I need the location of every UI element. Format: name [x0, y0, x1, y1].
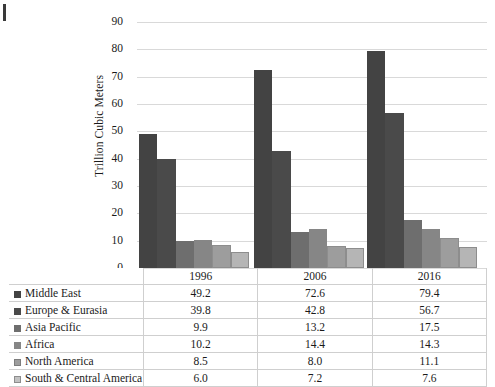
- y-tick-label-60: 60: [112, 98, 124, 110]
- table-cell-1996: 8.5: [143, 353, 257, 370]
- legend-swatch-icon: [14, 291, 21, 298]
- y-axis-tick-labels: 9080706050403020100: [95, 0, 131, 290]
- bar-2016-north-america[interactable]: [440, 238, 458, 268]
- bar-2016-asia-pacific[interactable]: [404, 220, 422, 268]
- table-cell-2006: 13.2: [258, 319, 372, 336]
- bar-2016-europe-eurasia[interactable]: [385, 113, 403, 268]
- legend-swatch-icon: [14, 325, 21, 332]
- bar-2006-africa[interactable]: [309, 229, 327, 268]
- table-cell-2006: 42.8: [258, 302, 372, 319]
- plot-area: [137, 22, 487, 268]
- table-row: Asia Pacific9.913.217.5: [9, 319, 487, 336]
- table-row: South & Central America6.07.27.6: [9, 370, 487, 387]
- table-cell-2016: 7.6: [372, 370, 486, 387]
- table-row: Africa10.214.414.3: [9, 336, 487, 353]
- bar-1996-africa[interactable]: [194, 240, 212, 268]
- bar-group-2006: [254, 22, 364, 268]
- table-row: Europe & Eurasia39.842.856.7: [9, 302, 487, 319]
- table-cell-2016: 56.7: [372, 302, 486, 319]
- table-body: Middle East49.272.679.4Europe & Eurasia3…: [9, 285, 487, 387]
- table-cell-1996: 10.2: [143, 336, 257, 353]
- table-cell-1996: 49.2: [143, 285, 257, 302]
- y-tick-label-40: 40: [112, 153, 124, 165]
- y-tick-label-20: 20: [112, 207, 124, 219]
- legend-swatch-icon: [14, 359, 21, 366]
- legend-swatch-icon: [14, 376, 21, 383]
- table-header-row: 199620062016: [9, 268, 487, 285]
- legend-item-label: Middle East: [25, 287, 81, 299]
- table-corner-cell: [9, 268, 143, 285]
- table-cell-1996: 39.8: [143, 302, 257, 319]
- table-cell-2016: 79.4: [372, 285, 486, 302]
- legend-item-south-central-america[interactable]: South & Central America: [9, 370, 143, 387]
- y-tick-label-80: 80: [112, 43, 124, 55]
- table-col-header-1996: 1996: [143, 268, 257, 285]
- bar-group-1996: [139, 22, 249, 268]
- bar-group-2016: [367, 22, 477, 268]
- legend-item-europe-eurasia[interactable]: Europe & Eurasia: [9, 302, 143, 319]
- bar-1996-south-central-america[interactable]: [231, 252, 249, 268]
- bar-2006-south-central-america[interactable]: [346, 248, 364, 268]
- legend-item-africa[interactable]: Africa: [9, 336, 143, 353]
- table-cell-2006: 72.6: [258, 285, 372, 302]
- legend-item-label: Asia Pacific: [25, 321, 81, 333]
- legend-item-label: South & Central America: [25, 372, 142, 384]
- table-cell-2016: 17.5: [372, 319, 486, 336]
- table-col-header-2016: 2016: [372, 268, 486, 285]
- bar-1996-europe-eurasia[interactable]: [157, 159, 175, 268]
- table-cell-1996: 6.0: [143, 370, 257, 387]
- y-tick-label-70: 70: [112, 71, 124, 83]
- legend-item-label: Europe & Eurasia: [25, 304, 107, 316]
- bar-2006-europe-eurasia[interactable]: [272, 151, 290, 268]
- legend-item-north-america[interactable]: North America: [9, 353, 143, 370]
- y-tick-label-30: 30: [112, 180, 124, 192]
- table-col-header-2006: 2006: [258, 268, 372, 285]
- bar-2016-south-central-america[interactable]: [459, 247, 477, 268]
- table-cell-2016: 11.1: [372, 353, 486, 370]
- bar-1996-middle-east[interactable]: [139, 134, 157, 268]
- bar-2006-asia-pacific[interactable]: [291, 232, 309, 268]
- legend-item-label: North America: [25, 355, 94, 367]
- data-table: 199620062016 Middle East49.272.679.4Euro…: [9, 268, 487, 387]
- table-cell-1996: 9.9: [143, 319, 257, 336]
- bar-1996-asia-pacific[interactable]: [176, 241, 194, 268]
- table-cell-2006: 14.4: [258, 336, 372, 353]
- y-tick-label-10: 10: [112, 235, 124, 247]
- y-tick-label-90: 90: [112, 16, 124, 28]
- table-row: North America8.58.011.1: [9, 353, 487, 370]
- bar-2006-middle-east[interactable]: [254, 70, 272, 268]
- legend-item-asia-pacific[interactable]: Asia Pacific: [9, 319, 143, 336]
- bar-2006-north-america[interactable]: [327, 246, 345, 268]
- table-cell-2016: 14.3: [372, 336, 486, 353]
- bar-2016-middle-east[interactable]: [367, 51, 385, 268]
- bar-1996-north-america[interactable]: [212, 245, 230, 268]
- legend-item-label: Africa: [25, 338, 54, 350]
- legend-swatch-icon: [14, 342, 21, 349]
- legend-swatch-icon: [14, 308, 21, 315]
- bar-2016-africa[interactable]: [422, 229, 440, 268]
- table-row: Middle East49.272.679.4: [9, 285, 487, 302]
- legend-item-middle-east[interactable]: Middle East: [9, 285, 143, 302]
- y-tick-label-50: 50: [112, 125, 124, 137]
- table-cell-2006: 8.0: [258, 353, 372, 370]
- table-cell-2006: 7.2: [258, 370, 372, 387]
